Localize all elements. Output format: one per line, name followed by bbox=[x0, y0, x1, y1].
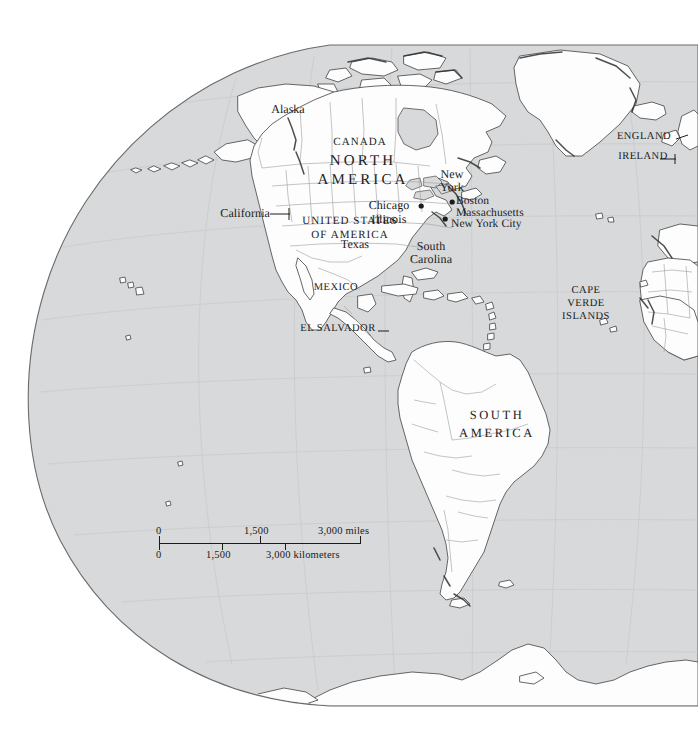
boston-city-dot bbox=[449, 198, 457, 206]
scale-label-km-1500: 1,500 bbox=[206, 549, 231, 560]
chicago-city-dot bbox=[418, 202, 426, 210]
california-leader-line bbox=[270, 206, 294, 222]
scale-bar: 0 1,500 3,000 miles 0 1,500 3,000 kilome… bbox=[159, 527, 372, 563]
scale-tick-miles-3000 bbox=[360, 536, 361, 544]
scale-label-km-3000: 3,000 kilometers bbox=[266, 549, 340, 560]
new-york-city-dot bbox=[442, 215, 450, 223]
ireland-leader-line bbox=[660, 151, 684, 167]
england-leader-line bbox=[676, 130, 696, 146]
globe-graphic bbox=[0, 0, 698, 750]
scale-label-km-0: 0 bbox=[156, 549, 161, 560]
scale-label-miles-3000: 3,000 miles bbox=[318, 525, 369, 536]
scale-tick-miles-1500 bbox=[260, 536, 261, 544]
scale-label-miles-0: 0 bbox=[156, 525, 161, 536]
world-map-figure: Alaska CANADA NORTH AMERICA California U… bbox=[0, 0, 698, 750]
scale-label-miles-1500: 1,500 bbox=[244, 525, 269, 536]
el-salvador-leader-line bbox=[378, 324, 394, 338]
